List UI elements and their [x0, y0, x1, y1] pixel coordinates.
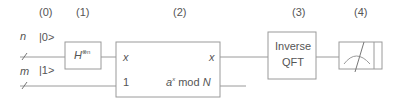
register-m-label: m: [20, 65, 29, 77]
stage-3-label: (3): [292, 6, 305, 18]
qft-line2: QFT: [272, 56, 314, 68]
modexp-out-x: x: [209, 51, 215, 63]
stage-4-label: (4): [354, 6, 367, 18]
modexp-in-x: x: [123, 51, 129, 63]
register-bottom-state: |1>: [39, 64, 54, 76]
modexp-in-1: 1: [123, 76, 129, 88]
register-n-label: n: [20, 30, 26, 42]
stage-1-label: (1): [76, 6, 89, 18]
modexp-gate: [116, 42, 220, 97]
stage-2-label: (2): [173, 6, 186, 18]
qft-line1: Inverse: [272, 40, 314, 52]
register-top-state: |0>: [39, 31, 54, 43]
hadamard-label: H⊗n: [74, 48, 90, 61]
stage-0-label: (0): [39, 6, 52, 18]
modexp-out-func: ax mod N: [166, 76, 211, 88]
meter-icon: [339, 42, 382, 69]
